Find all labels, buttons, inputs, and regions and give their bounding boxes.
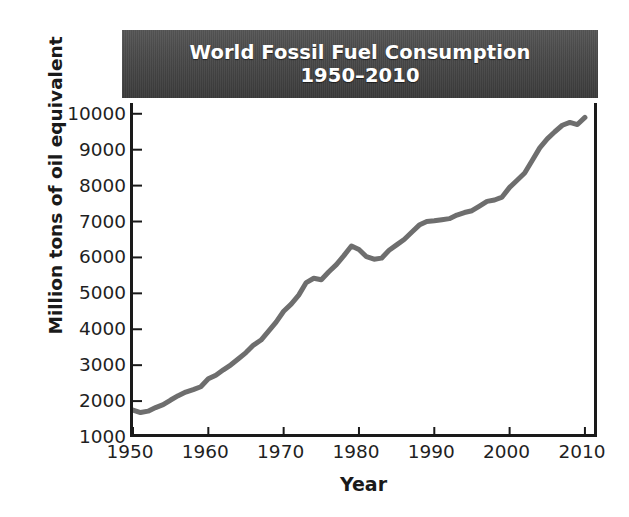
y-tick-label: 8000 <box>56 176 126 195</box>
y-tick-label: 10000 <box>56 105 126 124</box>
x-tick-marks <box>133 427 585 437</box>
chart-figure: World Fossil Fuel Consumption 1950–2010 … <box>0 0 629 517</box>
x-tick-label: 1950 <box>95 443 165 462</box>
y-tick-label: 2000 <box>56 392 126 411</box>
chart-title-line-2: 1950–2010 <box>300 64 419 87</box>
x-tick-label: 2000 <box>472 443 542 462</box>
x-tick-label: 2010 <box>547 443 617 462</box>
y-tick-marks <box>133 114 142 437</box>
x-tick-label: 1960 <box>170 443 240 462</box>
chart-title-banner: World Fossil Fuel Consumption 1950–2010 <box>122 30 598 98</box>
y-tick-label: 7000 <box>56 212 126 231</box>
x-axis-tick-labels: 1950196019701980199020002010 <box>130 443 597 469</box>
line-series-svg <box>133 103 600 437</box>
plot-area <box>130 103 597 437</box>
x-tick-label: 1990 <box>396 443 466 462</box>
y-axis-tick-labels: 1000200030004000500060007000800090001000… <box>50 103 126 437</box>
y-tick-label: 9000 <box>56 140 126 159</box>
x-axis-label: Year <box>130 473 597 495</box>
y-tick-label: 3000 <box>56 356 126 375</box>
data-line-world-fossil-fuel-consumption <box>133 117 585 412</box>
y-tick-label: 6000 <box>56 248 126 267</box>
x-tick-label: 1980 <box>321 443 391 462</box>
chart-title-line-1: World Fossil Fuel Consumption <box>189 41 530 64</box>
y-tick-label: 4000 <box>56 320 126 339</box>
x-tick-label: 1970 <box>246 443 316 462</box>
y-tick-label: 5000 <box>56 284 126 303</box>
